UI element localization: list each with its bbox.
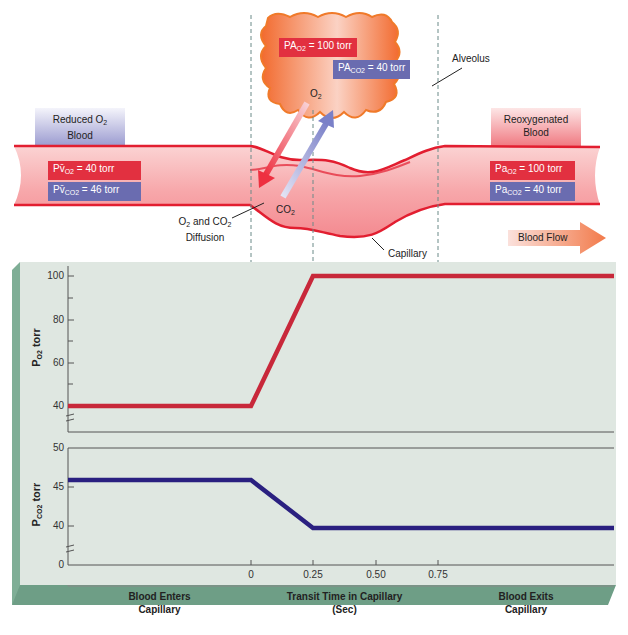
blood-flow-label: Blood Flow	[518, 232, 567, 244]
alveolar-po2-label: PAO2 = 100 torr	[279, 38, 357, 57]
phase-transit-line1: Transit Time in Capillary	[287, 591, 402, 602]
pco2-tick-50: 50	[38, 442, 64, 453]
reduced-o2-blood-label: Reduced O2Blood	[35, 113, 125, 142]
phase-exit-line2: Capillary	[505, 604, 547, 615]
arterial-po2-prefix: Pa	[495, 163, 507, 174]
alveolar-po2-sub: O2	[297, 45, 306, 52]
arterial-pco2-prefix: Pa	[495, 184, 507, 195]
x-tick-075: 0.75	[423, 569, 453, 580]
po2-tick-100: 100	[38, 270, 64, 281]
arterial-pco2-value: = 40 torr	[524, 184, 562, 195]
x-tick-050: 0.50	[361, 569, 391, 580]
venous-pco2-prefix: Pv̄	[53, 184, 65, 195]
x-tick-025: 0.25	[298, 569, 328, 580]
phase-enter-line1: Blood Enters	[128, 591, 190, 602]
venous-po2-sub: O2	[65, 168, 74, 175]
po2-axis-unit: torr	[30, 328, 42, 350]
phase-enter-line2: Capillary	[138, 604, 180, 615]
capillary-label: Capillary	[388, 248, 427, 260]
reduced-blood-line2: Blood	[67, 130, 93, 141]
reoxygenated-blood-label: ReoxygenatedBlood	[491, 113, 581, 139]
o2-arrow-label: O2	[310, 88, 322, 103]
alveolus-label: Alveolus	[452, 53, 490, 65]
co2-arrow-label: CO2	[276, 204, 295, 219]
po2-tick-40: 40	[38, 400, 64, 411]
arterial-po2-value: = 100 torr	[519, 163, 562, 174]
pco2-axis-main: P	[30, 519, 42, 526]
po2-axis-main: P	[30, 360, 42, 367]
reoxygenated-line2: Blood	[523, 127, 549, 138]
alveolar-pco2-label: PACO2 = 40 torr	[333, 60, 410, 79]
reoxygenated-line1: Reoxygenated	[504, 114, 569, 125]
venous-po2-label: Pv̄O2 = 40 torr	[48, 161, 141, 180]
alveolar-pco2-sub: CO2	[351, 67, 365, 74]
phase-row	[68, 585, 614, 586]
venous-pco2-sub: CO2	[65, 189, 79, 196]
phase-blood-exits: Blood ExitsCapillary	[438, 590, 614, 616]
phase-blood-enters: Blood EntersCapillary	[68, 590, 251, 616]
arterial-po2-label: PaO2 = 100 torr	[490, 161, 575, 180]
venous-pco2-value: = 46 torr	[82, 184, 120, 195]
arterial-pco2-label: PaCO2 = 40 torr	[490, 182, 575, 201]
venous-pco2-label: Pv̄CO2 = 46 torr	[48, 182, 141, 201]
pco2-axis-label: PCO2 torr	[30, 473, 43, 537]
pco2-axis-unit: torr	[30, 483, 42, 505]
arterial-pco2-sub: CO2	[507, 189, 521, 196]
phase-transit-line2: (Sec)	[332, 604, 356, 615]
phase-transit-time: Transit Time in Capillary(Sec)	[251, 590, 438, 616]
arterial-po2-sub: O2	[507, 168, 516, 175]
po2-axis-label: PO2 torr	[30, 318, 43, 378]
alveolar-pco2-value: = 40 torr	[368, 62, 406, 73]
diffusion-label: O2 and CO2Diffusion	[170, 215, 240, 244]
venous-po2-prefix: Pv̄	[53, 163, 65, 174]
venous-po2-value: = 40 torr	[77, 163, 115, 174]
x-tick-0: 0	[236, 569, 266, 580]
pco2-axis-sub: CO2	[36, 505, 43, 519]
po2-axis-sub: O2	[36, 350, 43, 359]
alveolar-po2-prefix: PA	[284, 40, 297, 51]
pco2-tick-0: 0	[38, 559, 64, 570]
alveolar-po2-value: = 100 torr	[309, 40, 352, 51]
diffusion-label-line2: Diffusion	[186, 232, 225, 243]
phase-exit-line1: Blood Exits	[498, 591, 553, 602]
alveolar-pco2-prefix: PA	[338, 62, 351, 73]
